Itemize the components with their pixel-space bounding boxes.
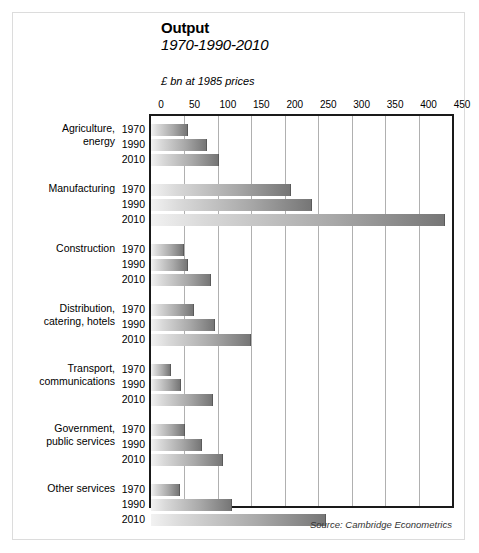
bar (151, 304, 194, 316)
year-label: 1990 (117, 198, 145, 210)
bar (151, 364, 171, 376)
x-tick-100: 100 (220, 99, 237, 110)
category-label-line: Distribution, (13, 302, 115, 315)
chart-subtitle: 1970-1990-2010 (161, 36, 461, 54)
year-label: 2010 (117, 513, 145, 525)
category-label-line: Construction (13, 242, 115, 255)
source-attribution: Source: Cambridge Econometrics (310, 519, 452, 530)
page-title: Output (161, 19, 461, 36)
x-axis-tick-labels: 050100150200250300350400450 (149, 99, 469, 113)
x-tick-350: 350 (387, 99, 404, 110)
year-label: 1990 (117, 258, 145, 270)
bar (151, 319, 215, 331)
year-label: 2010 (117, 333, 145, 345)
bar (151, 424, 185, 436)
bar (151, 394, 213, 406)
chart-units-label: £ bn at 1985 prices (161, 75, 255, 87)
bar (151, 439, 202, 451)
category-label: Construction (13, 242, 115, 255)
category-label-line: Manufacturing (13, 182, 115, 195)
category-label: Transport,communications (13, 362, 115, 388)
year-label: 1970 (117, 363, 145, 375)
bar (151, 214, 445, 226)
category-label-line: Other services (13, 482, 115, 495)
chart-card: Output 1970-1990-2010 £ bn at 1985 price… (12, 12, 465, 540)
x-tick-300: 300 (353, 99, 370, 110)
year-label: 1990 (117, 438, 145, 450)
x-tick-200: 200 (286, 99, 303, 110)
year-label: 1970 (117, 243, 145, 255)
year-label: 1970 (117, 303, 145, 315)
chart-header: Output 1970-1990-2010 (161, 19, 461, 54)
year-label: 2010 (117, 393, 145, 405)
bar (151, 139, 207, 151)
bar (151, 184, 291, 196)
year-label: 1990 (117, 138, 145, 150)
year-label: 1990 (117, 318, 145, 330)
category-label: Government,public services (13, 422, 115, 448)
bar (151, 379, 181, 391)
year-label: 2010 (117, 153, 145, 165)
year-label: 1970 (117, 123, 145, 135)
year-label: 2010 (117, 273, 145, 285)
category-label: Manufacturing (13, 182, 115, 195)
bar (151, 484, 180, 496)
bar (151, 154, 219, 166)
category-label-line: communications (13, 375, 115, 388)
bar (151, 514, 326, 526)
x-tick-50: 50 (189, 99, 200, 110)
bar (151, 124, 188, 136)
bar (151, 499, 232, 511)
category-label: Agriculture,energy (13, 122, 115, 148)
year-label: 1990 (117, 378, 145, 390)
plot-area (149, 114, 454, 508)
x-tick-400: 400 (420, 99, 437, 110)
bar (151, 244, 184, 256)
year-label: 1990 (117, 498, 145, 510)
year-label: 2010 (117, 213, 145, 225)
year-label: 1970 (117, 423, 145, 435)
x-tick-250: 250 (320, 99, 337, 110)
bars-layer (151, 116, 452, 506)
x-tick-450: 450 (454, 99, 471, 110)
bar (151, 454, 223, 466)
category-label: Distribution,catering, hotels (13, 302, 115, 328)
category-label-line: Agriculture, (13, 122, 115, 135)
category-label-line: Government, (13, 422, 115, 435)
bar (151, 259, 188, 271)
bar (151, 199, 312, 211)
category-label-line: public services (13, 435, 115, 448)
category-label-line: Transport, (13, 362, 115, 375)
year-label: 1970 (117, 183, 145, 195)
x-tick-150: 150 (253, 99, 270, 110)
x-tick-0: 0 (158, 99, 164, 110)
year-label: 2010 (117, 453, 145, 465)
bar (151, 274, 211, 286)
year-label: 1970 (117, 483, 145, 495)
category-label-line: catering, hotels (13, 315, 115, 328)
bar (151, 334, 251, 346)
category-label-line: energy (13, 135, 115, 148)
category-label: Other services (13, 482, 115, 495)
